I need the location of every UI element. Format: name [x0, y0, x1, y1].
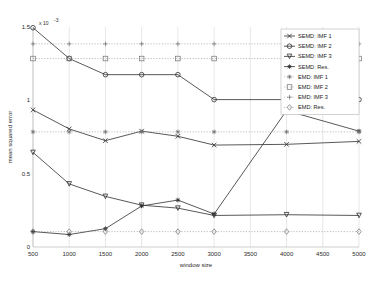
legend-label: EMD: IMF 1 [298, 74, 328, 80]
data-point [212, 130, 217, 135]
legend-label: EMD: Res. [298, 104, 325, 110]
x-tick-label: 2000 [135, 251, 149, 257]
legend-item-semd-imf-2[interactable]: SEMD: IMF 2 [284, 43, 332, 49]
data-point [284, 130, 289, 135]
series-semd-imf-3 [31, 150, 362, 218]
legend-label: SEMD: IMF 2 [298, 43, 332, 49]
legend-item-emd-imf-2[interactable]: EMD: IMF 2 [284, 84, 328, 90]
data-point [139, 130, 144, 135]
series-path [33, 110, 359, 145]
legend-label: SEMD: IMF 3 [298, 53, 332, 59]
series-emd-imf-1 [31, 130, 362, 135]
data-point [176, 42, 181, 47]
y-axis-title: mean squared error [7, 111, 13, 164]
data-point [103, 42, 108, 47]
x-tick-label: 5000 [352, 251, 366, 257]
y-tick-label: 0 [27, 244, 31, 250]
x-tick-label: 4500 [316, 251, 330, 257]
y-tick-label: 0.5 [22, 171, 31, 177]
legend-box [281, 29, 359, 115]
x-tick-label: 4000 [280, 251, 294, 257]
data-point [212, 42, 217, 47]
series-semd-res [31, 108, 362, 237]
data-point [31, 130, 36, 135]
data-point [176, 198, 181, 203]
x-tick-label: 1000 [63, 251, 77, 257]
legend-marker-icon [287, 75, 292, 80]
legend-label: EMD: IMF 3 [298, 94, 328, 100]
series-emd-res [31, 229, 362, 235]
data-point [357, 130, 362, 135]
x-tick-labels: 500100015002000250030003500400045005000 [28, 251, 366, 257]
legend-label: EMD: IMF 2 [298, 84, 328, 90]
data-point [103, 130, 108, 135]
x-tick-label: 3500 [244, 251, 258, 257]
legend-label: SEMD: IMF 1 [298, 33, 332, 39]
legend-label: SEMD: Res. [298, 64, 329, 70]
x-tick-label: 1500 [99, 251, 113, 257]
data-point [212, 212, 217, 217]
axis-labels: window sizemean squared errorx 10-3 [7, 17, 213, 268]
y-axis-exponent: x 10 [39, 20, 49, 26]
series-path [33, 111, 359, 235]
data-point [67, 42, 72, 47]
x-tick-label: 3000 [207, 251, 221, 257]
x-tick-label: 500 [28, 251, 39, 257]
legend-item-emd-res[interactable]: EMD: Res. [284, 104, 325, 110]
x-tick-label: 2500 [171, 251, 185, 257]
legend-marker-icon [287, 64, 292, 69]
data-point [176, 130, 181, 135]
chart-figure: 500100015002000250030003500400045005000 … [0, 0, 384, 289]
chart-legend: SEMD: IMF 1SEMD: IMF 2SEMD: IMF 3SEMD: R… [281, 29, 359, 115]
data-point [31, 42, 36, 47]
mse-vs-window-size-line-chart: 500100015002000250030003500400045005000 … [0, 0, 384, 289]
y-tick-label: 1.5 [22, 24, 31, 30]
data-point [139, 42, 144, 47]
data-point [67, 130, 72, 135]
y-tick-labels: 00.511.5 [22, 24, 31, 250]
y-tick-label: 1 [27, 97, 31, 103]
x-axis-title: window size [179, 262, 213, 268]
data-point [139, 204, 144, 209]
series-path [33, 152, 359, 215]
y-axis-exponent-superscript: -3 [54, 17, 59, 23]
legend-item-semd-imf-1[interactable]: SEMD: IMF 1 [284, 33, 332, 39]
